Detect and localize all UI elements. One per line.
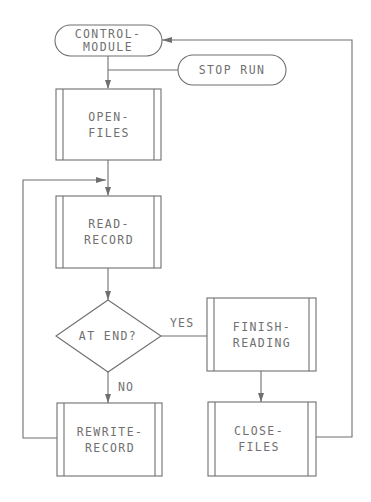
edge-close-to-control [162, 37, 352, 437]
edge-decision-no: NO [105, 372, 134, 403]
node-at-end-decision: AT END? [56, 300, 161, 372]
open-files-line2: FILES [88, 126, 130, 140]
rewrite-record-line1: REWRITE- [77, 425, 144, 439]
node-control-module: CONTROL- MODULE [55, 25, 162, 56]
node-rewrite-record: REWRITE- RECORD [57, 403, 162, 476]
flowchart: YES NO CONTROL- MODULE STOP RUN OPEN- FI… [0, 0, 371, 502]
node-open-files: OPEN- FILES [56, 89, 161, 160]
node-close-files: CLOSE- FILES [208, 402, 316, 476]
edge-control-to-open [105, 56, 111, 89]
node-finish-reading: FINISH- READING [207, 298, 316, 371]
finish-reading-line1: FINISH- [233, 320, 291, 334]
rewrite-record-line2: RECORD [85, 441, 135, 455]
edge-read-to-decision [105, 268, 111, 300]
finish-reading-line2: READING [233, 336, 291, 350]
yes-label: YES [170, 316, 194, 330]
stop-run-label: STOP RUN [199, 63, 266, 77]
at-end-label: AT END? [79, 329, 137, 343]
edge-open-to-read [105, 160, 111, 196]
open-files-line1: OPEN- [88, 110, 130, 124]
control-module-line2: MODULE [83, 40, 133, 54]
no-label: NO [118, 380, 134, 394]
node-read-record: READ- RECORD [56, 196, 161, 268]
close-files-line1: CLOSE- [234, 424, 284, 438]
control-module-line1: CONTROL- [75, 27, 142, 41]
node-stop-run: STOP RUN [178, 55, 286, 85]
read-record-line1: READ- [88, 217, 130, 231]
edge-decision-yes: YES [161, 316, 207, 336]
edge-finish-to-close [258, 371, 264, 402]
read-record-line2: RECORD [84, 233, 134, 247]
close-files-line2: FILES [238, 440, 280, 454]
